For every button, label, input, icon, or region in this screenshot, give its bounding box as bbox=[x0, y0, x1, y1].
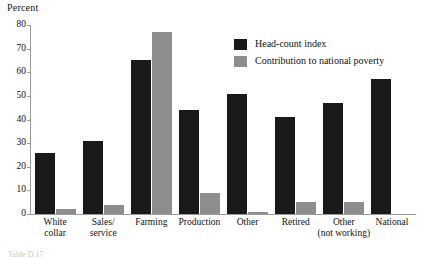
bar bbox=[227, 94, 247, 214]
y-tick-label: 60 bbox=[0, 67, 26, 77]
y-tick-label: 70 bbox=[0, 44, 26, 54]
legend-swatch-contribution-to-national-poverty bbox=[234, 56, 247, 67]
y-tick-label: 10 bbox=[0, 185, 26, 195]
y-tick-label: 20 bbox=[0, 162, 26, 172]
legend-item: Head-count index bbox=[234, 38, 384, 50]
bar bbox=[152, 32, 172, 214]
y-tick-label: 80 bbox=[0, 20, 26, 30]
bar bbox=[83, 141, 103, 214]
caption-fragment: Table D.17 bbox=[8, 250, 43, 258]
y-axis-title: Percent bbox=[7, 2, 38, 13]
bar bbox=[344, 202, 364, 214]
bar bbox=[200, 193, 220, 214]
legend: Head-count index Contribution to nationa… bbox=[234, 38, 384, 72]
bar bbox=[131, 60, 151, 214]
y-tick-mark bbox=[27, 72, 30, 73]
y-tick-mark bbox=[27, 190, 30, 191]
bar bbox=[248, 212, 268, 214]
y-tick-label: 50 bbox=[0, 91, 26, 101]
y-tick-label: 30 bbox=[0, 138, 26, 148]
bar bbox=[56, 209, 76, 214]
bar-group bbox=[83, 25, 124, 214]
y-tick-mark bbox=[27, 167, 30, 168]
y-tick-mark bbox=[27, 96, 30, 97]
bar-chart: Percent 80706050403020100 White collarSa… bbox=[0, 0, 423, 259]
bar-group bbox=[35, 25, 76, 214]
bar bbox=[296, 202, 316, 214]
legend-swatch-head-count-index bbox=[234, 39, 247, 50]
bar bbox=[179, 110, 199, 214]
y-tick-mark bbox=[27, 120, 30, 121]
legend-item: Contribution to national poverty bbox=[234, 55, 384, 67]
y-tick-label: 40 bbox=[0, 115, 26, 125]
legend-label: Contribution to national poverty bbox=[255, 55, 384, 67]
bar bbox=[323, 103, 343, 214]
bar bbox=[35, 153, 55, 214]
x-axis-line bbox=[30, 214, 416, 215]
bar bbox=[104, 205, 124, 214]
bar bbox=[371, 79, 391, 214]
y-tick-mark bbox=[27, 214, 30, 215]
legend-label: Head-count index bbox=[255, 38, 326, 50]
y-tick-mark bbox=[27, 143, 30, 144]
bar-group bbox=[131, 25, 172, 214]
y-tick-mark bbox=[27, 25, 30, 26]
bar-group bbox=[179, 25, 220, 214]
y-tick-mark bbox=[27, 49, 30, 50]
x-tick-label: National bbox=[360, 217, 423, 228]
bar bbox=[275, 117, 295, 214]
